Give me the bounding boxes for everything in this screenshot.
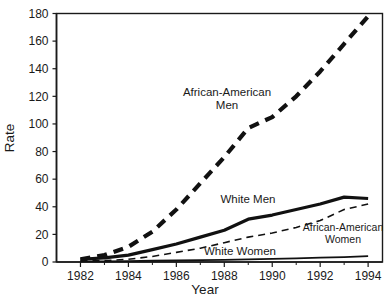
annotation-white-men: White Men <box>221 193 276 205</box>
annotation-african-american-men-line2: Men <box>216 99 238 111</box>
x-tick-label: 1982 <box>67 269 94 283</box>
y-axis-ticks: 020406080100120140160180 <box>28 7 56 270</box>
x-axis-title: Year <box>191 282 219 297</box>
y-tick-label: 100 <box>28 117 48 131</box>
x-axis-ticks: 1982198419861988199019921994 <box>67 262 382 283</box>
x-tick-label: 1986 <box>163 269 190 283</box>
y-tick-label: 60 <box>35 172 49 186</box>
annotation-african-american-women-line2: Women <box>325 233 361 245</box>
y-tick-label: 20 <box>35 228 49 242</box>
x-tick-label: 1992 <box>307 269 334 283</box>
y-tick-label: 140 <box>28 62 48 76</box>
y-tick-label: 160 <box>28 34 48 48</box>
y-tick-label: 0 <box>42 255 49 269</box>
x-tick-label: 1988 <box>211 269 238 283</box>
y-tick-label: 180 <box>28 7 48 21</box>
annotation-white-women: White Women <box>204 245 276 257</box>
x-tick-label: 1994 <box>355 269 382 283</box>
x-tick-label: 1984 <box>115 269 142 283</box>
annotation-african-american-men-line1: African-American <box>183 86 271 98</box>
y-axis-title: Rate <box>2 124 17 153</box>
y-tick-label: 80 <box>35 145 49 159</box>
y-tick-label: 120 <box>28 90 48 104</box>
chart-container: 020406080100120140160180 198219841986198… <box>0 0 390 301</box>
line-chart: 020406080100120140160180 198219841986198… <box>0 0 390 301</box>
x-tick-label: 1990 <box>259 269 286 283</box>
annotation-african-american-women-line1: African-American <box>303 221 384 233</box>
y-tick-label: 40 <box>35 200 49 214</box>
